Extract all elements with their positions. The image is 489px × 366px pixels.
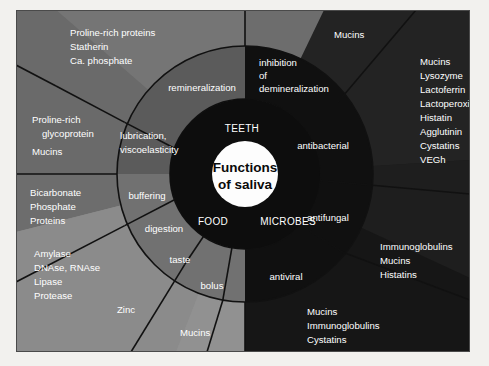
svg-text:lubrication,: lubrication, [120,130,166,141]
svg-text:glycoprotein: glycoprotein [42,128,94,139]
svg-text:DNAse, RNAse: DNAse, RNAse [34,262,100,273]
svg-text:Immunoglobulins: Immunoglobulins [380,241,453,252]
svg-text:Proline-rich: Proline-rich [32,114,81,125]
svg-text:Zinc: Zinc [117,304,135,315]
svg-text:demineralization: demineralization [259,83,329,94]
svg-text:viscoelasticity: viscoelasticity [120,144,179,155]
svg-text:Proline-rich proteins: Proline-rich proteins [70,27,156,38]
svg-text:Mucins: Mucins [334,29,365,40]
svg-text:Ca. phosphate: Ca. phosphate [70,55,132,66]
svg-text:Histatins: Histatins [380,269,417,280]
svg-text:Mucins: Mucins [380,255,411,266]
svg-text:Protease: Protease [34,290,72,301]
function-label-buffering: buffering [128,190,165,201]
svg-text:Cystatins: Cystatins [307,334,347,345]
svg-text:Mucins: Mucins [420,56,451,67]
components-taste: Zinc [117,304,135,315]
svg-text:Lactoperoxidase: Lactoperoxidase [420,98,470,109]
svg-text:Mucins: Mucins [32,146,63,157]
svg-text:Phosphate: Phosphate [30,201,76,212]
function-label-antibacterial: antibacterial [297,140,349,151]
function-label-bolus: bolus [201,280,224,291]
saliva-functions-figure: Functions of saliva TEETH FOOD MICROBES … [16,10,470,352]
center-title-line2: of saliva [218,177,273,192]
svg-text:Lactoferrin: Lactoferrin [420,84,465,95]
svg-text:inhibition: inhibition [259,57,297,68]
svg-text:Immunoglobulins: Immunoglobulins [307,320,380,331]
function-label-taste: taste [170,254,191,265]
function-label-digestion: digestion [145,223,183,234]
function-label-antifungal: antifungal [307,212,349,223]
components-demineralization: Mucins [334,29,365,40]
svg-text:Amylase: Amylase [34,248,71,259]
svg-text:Lipase: Lipase [34,276,62,287]
function-label-remineralization: remineralization [168,82,236,93]
svg-text:VEGh: VEGh [420,154,446,165]
svg-text:Agglutinin: Agglutinin [420,126,462,137]
svg-text:Proteins: Proteins [30,215,65,226]
svg-text:Statherin: Statherin [70,41,108,52]
components-bolus: Mucins [180,327,211,338]
svg-text:of: of [259,70,267,81]
function-label-antiviral: antiviral [269,271,302,282]
svg-text:Histatin: Histatin [420,112,452,123]
svg-text:Mucins: Mucins [180,327,211,338]
inner-ring-label-teeth: TEETH [225,123,259,134]
svg-text:Lysozyme: Lysozyme [420,70,463,81]
svg-text:Cystatins: Cystatins [420,140,460,151]
center-title-line1: Functions [213,160,278,175]
inner-ring-label-food: FOOD [198,216,228,227]
svg-text:Bicarbonate: Bicarbonate [30,187,81,198]
saliva-functions-diagram: Functions of saliva TEETH FOOD MICROBES … [16,10,470,352]
svg-text:Mucins: Mucins [307,306,338,317]
